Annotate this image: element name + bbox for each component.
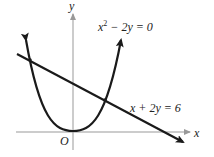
intersection-point [28, 58, 32, 62]
line-curve [17, 54, 183, 142]
line-equation: x + 2y = 6 [129, 101, 181, 115]
x-axis-label: x [193, 126, 200, 140]
intersection-point [103, 98, 107, 102]
graph: y x O x2 − 2y = 0 x + 2y = 6 [0, 0, 214, 157]
y-axis-label: y [68, 0, 75, 13]
origin-label: O [60, 134, 69, 148]
parabola-equation: x2 − 2y = 0 [97, 19, 153, 34]
